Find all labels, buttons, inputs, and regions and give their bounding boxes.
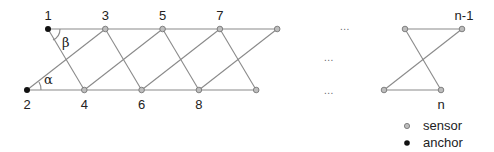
edges xyxy=(27,29,462,90)
beta-angle-label: β xyxy=(62,35,70,50)
node-labels: 12345678n-1n xyxy=(23,8,473,112)
sensor-node-4 xyxy=(82,87,88,93)
node-label-7: 7 xyxy=(216,8,223,23)
sensor-node-10 xyxy=(253,87,259,93)
edge-4-5 xyxy=(84,29,162,90)
node-label-n-1: n-1 xyxy=(455,8,474,23)
sensor-node-3 xyxy=(103,26,109,32)
legend: sensor anchor xyxy=(404,118,463,150)
ellipsis-bottom: ... xyxy=(324,85,334,96)
alpha-angle-label: α xyxy=(44,72,53,87)
ellipsis-middle: ... xyxy=(324,52,334,63)
edge-8-9 xyxy=(199,29,277,90)
sensor-node-n xyxy=(438,87,444,93)
node-label-5: 5 xyxy=(159,8,166,23)
sensor-node-5 xyxy=(160,26,166,32)
node-label-n: n xyxy=(437,97,444,112)
legend-sensor-marker xyxy=(404,123,409,128)
sensor-node-n-1 xyxy=(459,26,465,32)
alpha-angle-arc xyxy=(39,82,41,90)
node-label-4: 4 xyxy=(81,97,88,112)
legend-anchor-marker xyxy=(404,140,410,146)
anchor-node-2 xyxy=(24,87,30,93)
node-label-2: 2 xyxy=(23,97,30,112)
anchor-node-1 xyxy=(45,26,51,32)
legend-sensor-label: sensor xyxy=(423,118,463,133)
sensor-node-7 xyxy=(217,26,223,32)
edge-6-7 xyxy=(142,29,220,90)
edge-n-2-n-1 xyxy=(384,29,462,90)
node-label-1: 1 xyxy=(44,8,51,23)
sensor-node-8 xyxy=(196,87,202,93)
ellipsis-top: ... xyxy=(340,21,350,32)
node-label-6: 6 xyxy=(138,97,145,112)
sensor-network-diagram: 12345678n-1n β α ... ... ... sensor anch… xyxy=(0,0,494,152)
nodes xyxy=(24,26,465,93)
node-label-3: 3 xyxy=(102,8,109,23)
legend-anchor-label: anchor xyxy=(423,135,463,150)
sensor-node-n-3 xyxy=(402,26,408,32)
node-label-8: 8 xyxy=(195,97,202,112)
sensor-node-6 xyxy=(139,87,145,93)
sensor-node-n-2 xyxy=(381,87,387,93)
sensor-node-9 xyxy=(274,26,280,32)
